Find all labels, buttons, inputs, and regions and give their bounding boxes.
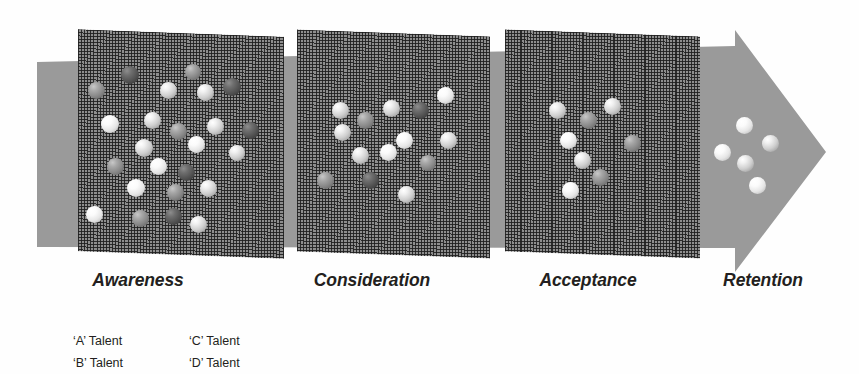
- sphere-consideration-a: [383, 100, 400, 117]
- sphere-awareness-b: [101, 115, 119, 133]
- sphere-acceptance-c: [624, 135, 641, 152]
- sphere-awareness-d: [165, 208, 182, 225]
- sphere-awareness-d: [242, 122, 259, 139]
- sphere-awareness-c: [88, 82, 105, 99]
- stage-label-acceptance: Acceptance: [498, 270, 678, 291]
- legend-item-a-talent: ‘A’ Talent: [52, 331, 122, 351]
- sphere-acceptance-b: [562, 182, 579, 199]
- sphere-consideration-d: [412, 102, 429, 119]
- sphere-acceptance-b: [560, 132, 577, 149]
- sphere-consideration-b: [396, 132, 413, 149]
- sphere-layer: [0, 0, 859, 310]
- legend-item-c-talent: ‘C’ Talent: [168, 331, 240, 351]
- sphere-awareness-c: [132, 210, 149, 227]
- sphere-awareness-d: [178, 164, 195, 181]
- sphere-retention-a: [737, 155, 754, 172]
- sphere-awareness-a: [207, 118, 224, 135]
- sphere-retention-b: [714, 144, 731, 161]
- sphere-awareness-a: [190, 216, 207, 233]
- sphere-awareness-a: [229, 145, 245, 161]
- sphere-swatch-d-icon: [168, 357, 181, 370]
- sphere-retention-b: [749, 177, 766, 194]
- sphere-consideration-c: [317, 172, 334, 189]
- sphere-acceptance-a: [604, 98, 621, 115]
- sphere-consideration-d: [362, 172, 379, 189]
- sphere-consideration-b: [437, 87, 454, 104]
- sphere-consideration-a: [352, 147, 369, 164]
- sphere-retention-b: [736, 117, 753, 134]
- sphere-consideration-a: [332, 102, 349, 119]
- sphere-acceptance-a: [549, 102, 566, 119]
- sphere-consideration-c: [420, 155, 436, 171]
- talent-funnel-figure: Awareness Consideration Acceptance Reten…: [0, 0, 859, 374]
- sphere-swatch-b-icon: [52, 357, 65, 370]
- legend: ‘A’ Talent ‘B’ Talent ‘C’ Talent ‘D’ Tal…: [52, 331, 382, 374]
- sphere-awareness-a: [135, 139, 153, 157]
- sphere-acceptance-c: [592, 169, 609, 186]
- sphere-awareness-b: [150, 158, 167, 175]
- sphere-swatch-c-icon: [168, 335, 181, 348]
- sphere-awareness-a: [160, 82, 177, 99]
- sphere-awareness-a: [144, 112, 161, 129]
- sphere-awareness-b: [188, 136, 205, 153]
- sphere-awareness-d: [223, 78, 241, 96]
- legend-label-c-talent: ‘C’ Talent: [189, 334, 240, 348]
- sphere-awareness-b: [86, 206, 103, 223]
- sphere-consideration-a: [440, 132, 457, 149]
- sphere-retention-a: [762, 135, 779, 152]
- legend-item-d-talent: ‘D’ Talent: [168, 353, 240, 373]
- sphere-awareness-c: [167, 184, 184, 201]
- sphere-awareness-a: [197, 84, 214, 101]
- sphere-swatch-a-icon: [52, 335, 65, 348]
- legend-label-a-talent: ‘A’ Talent: [73, 334, 122, 348]
- sphere-awareness-d: [121, 66, 139, 84]
- stage-label-retention: Retention: [673, 270, 853, 291]
- sphere-acceptance-a: [574, 152, 591, 169]
- sphere-awareness-a: [200, 180, 217, 197]
- sphere-consideration-a: [334, 124, 351, 141]
- sphere-awareness-c: [170, 123, 187, 140]
- sphere-consideration-b: [380, 144, 397, 161]
- sphere-acceptance-c: [580, 112, 597, 129]
- stage-label-awareness: Awareness: [48, 270, 228, 291]
- sphere-consideration-c: [357, 112, 374, 129]
- sphere-awareness-b: [127, 179, 145, 197]
- sphere-awareness-c: [185, 64, 201, 80]
- legend-item-b-talent: ‘B’ Talent: [52, 353, 123, 373]
- sphere-consideration-a: [398, 186, 415, 203]
- legend-label-b-talent: ‘B’ Talent: [73, 356, 123, 370]
- stage-label-consideration: Consideration: [282, 270, 462, 291]
- legend-label-d-talent: ‘D’ Talent: [189, 356, 240, 370]
- sphere-awareness-c: [107, 158, 124, 175]
